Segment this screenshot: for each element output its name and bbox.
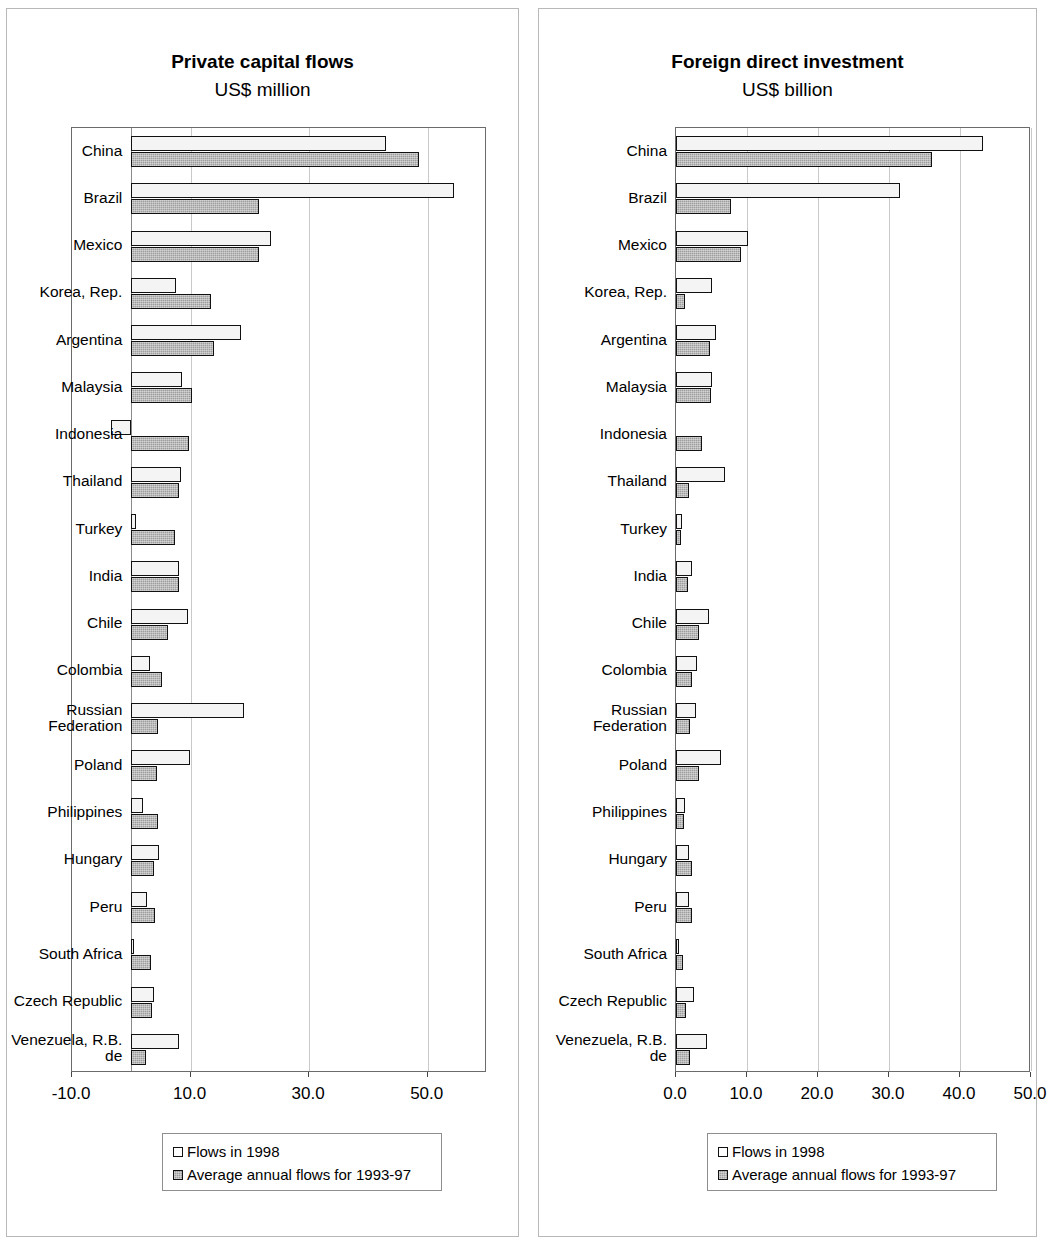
category-label: Malaysia — [0, 379, 122, 395]
bar-flows-1998 — [131, 750, 190, 765]
bar-average-1993-97 — [131, 861, 154, 876]
bar-group — [676, 128, 1029, 175]
bar-group — [676, 742, 1029, 789]
category-label: Russian Federation — [517, 702, 667, 734]
axis-tick-label: 10.0 — [150, 1084, 230, 1104]
legend-label-1998: Flows in 1998 — [187, 1143, 280, 1160]
chart-title-right: Foreign direct investment — [539, 51, 1036, 73]
bar-group — [676, 223, 1029, 270]
category-label: Mexico — [517, 237, 667, 253]
bar-flows-1998 — [676, 798, 685, 813]
bar-average-1993-97 — [676, 388, 711, 403]
bar-average-1993-97 — [676, 1003, 686, 1018]
bar-average-1993-97 — [131, 341, 214, 356]
legend-label-1998: Flows in 1998 — [732, 1143, 825, 1160]
legend-swatch-1998-icon — [718, 1147, 728, 1157]
bar-flows-1998 — [131, 325, 241, 340]
bar-flows-1998 — [131, 798, 143, 813]
category-label: Turkey — [0, 521, 122, 537]
bar-flows-1998 — [131, 372, 181, 387]
bar-group — [72, 695, 485, 742]
bar-flows-1998 — [676, 325, 716, 340]
category-label: Thailand — [0, 473, 122, 489]
category-label: South Africa — [0, 946, 122, 962]
axis-tick-label: 40.0 — [919, 1084, 999, 1104]
bar-flows-1998 — [676, 703, 696, 718]
category-label: Turkey — [517, 521, 667, 537]
category-label: Czech Republic — [0, 993, 122, 1009]
bar-group — [676, 412, 1029, 459]
legend-right: Flows in 1998 Average annual flows for 1… — [707, 1133, 997, 1191]
axis-tick — [675, 1072, 676, 1077]
bar-average-1993-97 — [676, 341, 710, 356]
axis-tick-label: -10.0 — [31, 1084, 111, 1104]
bar-average-1993-97 — [131, 1003, 152, 1018]
bar-flows-1998 — [676, 939, 679, 954]
bar-average-1993-97 — [131, 436, 189, 451]
legend-left: Flows in 1998 Average annual flows for 1… — [162, 1133, 442, 1191]
bar-average-1993-97 — [131, 199, 258, 214]
category-label: Czech Republic — [517, 993, 667, 1009]
category-label: Hungary — [0, 851, 122, 867]
bar-flows-1998 — [676, 987, 694, 1002]
bar-average-1993-97 — [676, 247, 741, 262]
legend-label-average: Average annual flows for 1993-97 — [187, 1166, 411, 1183]
bar-group — [72, 553, 485, 600]
bar-group — [676, 1026, 1029, 1073]
category-label: Chile — [0, 615, 122, 631]
plot-area-left — [71, 127, 486, 1072]
bar-average-1993-97 — [131, 955, 151, 970]
legend-swatch-1998-icon — [173, 1147, 183, 1157]
bar-group — [676, 790, 1029, 837]
chart-subtitle-right: US$ billion — [539, 79, 1036, 101]
bar-group — [72, 270, 485, 317]
legend-item-flows-1998-right: Flows in 1998 — [718, 1143, 825, 1160]
legend-item-flows-1998-left: Flows in 1998 — [173, 1143, 280, 1160]
bar-average-1993-97 — [676, 483, 689, 498]
bar-flows-1998 — [131, 183, 454, 198]
axis-tick — [427, 1072, 428, 1077]
bar-group — [72, 979, 485, 1026]
axis-tick — [308, 1072, 309, 1077]
bar-flows-1998 — [131, 467, 181, 482]
category-label: Indonesia — [517, 426, 667, 442]
axis-tick — [746, 1072, 747, 1077]
bar-flows-1998 — [676, 372, 712, 387]
bar-average-1993-97 — [676, 199, 731, 214]
axis-tick-label: 0.0 — [635, 1084, 715, 1104]
category-label: Brazil — [0, 190, 122, 206]
category-label: India — [0, 568, 122, 584]
bar-group — [676, 317, 1029, 364]
category-label: China — [0, 143, 122, 159]
axis-tick — [190, 1072, 191, 1077]
category-label: Philippines — [0, 804, 122, 820]
bar-flows-1998 — [131, 136, 386, 151]
category-label: Peru — [517, 899, 667, 915]
category-label: South Africa — [517, 946, 667, 962]
bar-flows-1998 — [676, 656, 697, 671]
bar-group — [72, 1026, 485, 1073]
category-label: Mexico — [0, 237, 122, 253]
category-label: Argentina — [517, 332, 667, 348]
category-label: Philippines — [517, 804, 667, 820]
bar-average-1993-97 — [676, 908, 692, 923]
bar-flows-1998 — [676, 892, 689, 907]
bar-average-1993-97 — [676, 436, 702, 451]
bar-flows-1998 — [676, 514, 682, 529]
bar-group — [72, 601, 485, 648]
legend-label-average: Average annual flows for 1993-97 — [732, 1166, 956, 1183]
axis-tick — [1030, 1072, 1031, 1077]
category-label: Indonesia — [0, 426, 122, 442]
chart-panel-foreign-direct-investment: Foreign direct investment US$ billion 0.… — [538, 8, 1037, 1237]
chart-panel-private-capital-flows: Private capital flows US$ million -10.01… — [6, 8, 519, 1237]
bar-average-1993-97 — [131, 625, 168, 640]
category-label: Colombia — [0, 662, 122, 678]
bar-group — [72, 884, 485, 931]
bar-flows-1998 — [131, 231, 270, 246]
bar-group — [676, 553, 1029, 600]
bar-flows-1998 — [131, 939, 134, 954]
bar-group — [72, 506, 485, 553]
category-label: Argentina — [0, 332, 122, 348]
bar-average-1993-97 — [676, 625, 699, 640]
